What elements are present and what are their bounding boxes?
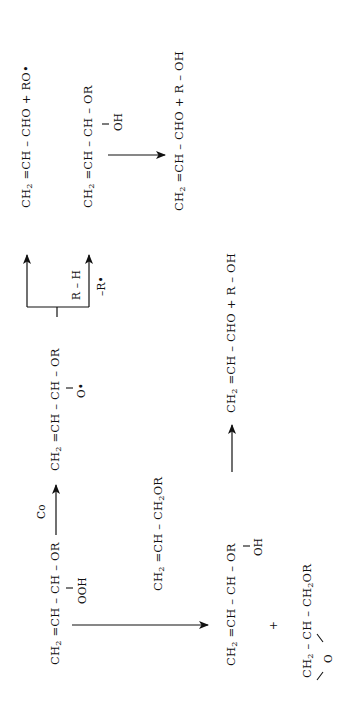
- final-chain: =CH – CHO + R – OH: [224, 253, 238, 388]
- final-aldehyde-alcohol: CH2 =CH – CHO + R – OH: [226, 253, 239, 413]
- reactant-ch: CH: [48, 646, 62, 665]
- epoxide-ch: CH: [300, 659, 314, 678]
- subscript: 2: [306, 653, 315, 658]
- hydroxy-ch: CH: [224, 647, 238, 666]
- subscript: 2: [157, 566, 166, 571]
- reactant-chain: =CH – CH – OR: [48, 543, 62, 641]
- intermediate-oh: OH: [113, 113, 124, 131]
- subscript: 2: [157, 495, 166, 500]
- subscript: 2: [306, 582, 315, 587]
- reagent-rh: R – H: [71, 270, 82, 300]
- intermediate-hydroxy: CH2 =CH – CH – OR: [83, 86, 96, 209]
- substrate-chain: =CH – CH: [151, 501, 165, 567]
- subscript: 2: [54, 446, 63, 451]
- subscript: 2: [178, 186, 187, 191]
- subscript: 2: [87, 183, 96, 188]
- subscript: 2: [230, 641, 239, 646]
- alkoxy-ch: CH: [48, 452, 62, 471]
- reactant-hydroperoxide: CH2 =CH – CH – OR: [50, 543, 63, 666]
- epoxide-product: CH2 – CH – CH2OR: [302, 564, 315, 678]
- epoxide-or: OR: [300, 564, 314, 583]
- subscript: 2: [25, 183, 34, 188]
- final-ch: CH: [224, 394, 238, 413]
- alkoxy-radical: CH2 =CH – CH – OR: [50, 349, 63, 472]
- plus-sign: +: [268, 621, 279, 630]
- product-aldehyde-ro-radical: CH2 =CH – CHO + RO•: [21, 65, 34, 208]
- product-aldehyde-alcohol: CH2 =CH – CHO + R – OH: [174, 51, 187, 211]
- catalyst-co-label: Co: [36, 504, 47, 519]
- product-chain: =CH – CHO + R – OH: [172, 51, 186, 186]
- reagent-minus-r-radical: –R•: [96, 276, 107, 296]
- intermediate-chain: =CH – CH – OR: [81, 86, 95, 184]
- product-chain: =CH – CHO + RO•: [19, 65, 33, 183]
- substrate-ch: CH: [151, 572, 165, 591]
- hydroxy-product: CH2 =CH – CH – OR: [226, 544, 239, 667]
- intermediate-ch: CH: [81, 189, 95, 208]
- hydroxy-product-oh: OH: [253, 538, 264, 556]
- subscript: 2: [54, 640, 63, 645]
- product-ch: CH: [19, 189, 33, 208]
- alkoxy-o-radical: O•: [76, 383, 87, 398]
- product-ch: CH: [172, 192, 186, 211]
- subscript: 2: [230, 388, 239, 393]
- substrate-or: OR: [151, 477, 165, 496]
- epoxide-oxygen: O: [323, 654, 334, 663]
- epoxide-chain: – CH – CH: [300, 588, 314, 654]
- hydroxy-chain: =CH – CH – OR: [224, 544, 238, 642]
- reactant-ooh: OOH: [77, 577, 88, 604]
- allyl-ether-substrate: CH2 =CH – CH2OR: [153, 477, 166, 591]
- alkoxy-chain: =CH – CH – OR: [48, 349, 62, 447]
